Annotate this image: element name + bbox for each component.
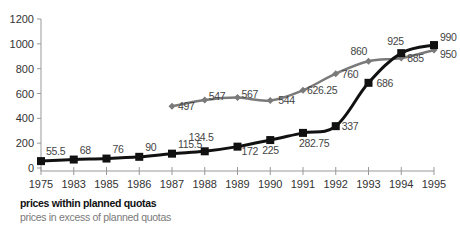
data-label: 990	[440, 31, 457, 43]
series-excess-quotas: 497547567544626.25760860885950	[169, 45, 458, 112]
data-point-marker	[300, 87, 307, 94]
x-tick-label: 1985	[94, 178, 118, 190]
data-label: 547	[209, 90, 226, 102]
x-tick-label: 1994	[389, 178, 413, 190]
y-tick-label: 0	[28, 162, 34, 174]
data-point-marker	[103, 155, 111, 163]
y-tick-label: 1000	[10, 38, 34, 50]
data-point-marker	[299, 129, 307, 137]
data-label: 172	[242, 145, 259, 157]
data-label: 686	[377, 77, 394, 89]
x-tick-label: 1988	[193, 178, 217, 190]
data-point-marker	[169, 103, 176, 110]
data-label: 497	[178, 100, 195, 112]
data-point-marker	[365, 58, 372, 65]
y-tick-label: 400	[16, 112, 34, 124]
data-label: 337	[342, 120, 359, 132]
x-tick-label: 1992	[324, 178, 348, 190]
series-layer: 497547567544626.2576086088595055.5687690…	[37, 31, 457, 165]
y-tick-label: 200	[16, 137, 34, 149]
x-tick-label: 1986	[127, 178, 151, 190]
data-point-marker	[365, 79, 373, 87]
data-label: 55.5	[46, 145, 66, 157]
data-label: 760	[342, 68, 359, 80]
data-point-marker	[332, 122, 340, 130]
x-tick-label: 1983	[62, 178, 86, 190]
data-label: 885	[407, 52, 424, 64]
data-point-marker	[267, 97, 274, 104]
data-label: 134.5	[189, 131, 214, 143]
data-point-marker	[37, 157, 45, 165]
y-tick-label: 1200	[10, 13, 34, 25]
data-label: 282.75	[299, 137, 330, 149]
y-axis: 020040060080010001200	[10, 13, 41, 174]
data-point-marker	[430, 41, 438, 49]
data-label: 90	[145, 141, 157, 153]
data-label: 626.25	[307, 84, 338, 96]
data-point-marker	[266, 136, 274, 144]
y-tick-label: 800	[16, 63, 34, 75]
line-chart: 020040060080010001200 197519831985198619…	[0, 0, 460, 195]
data-label: 544	[278, 94, 295, 106]
data-label: 76	[113, 143, 125, 155]
x-tick-label: 1989	[225, 178, 249, 190]
data-point-marker	[168, 150, 176, 158]
data-label: 567	[242, 88, 259, 100]
legend-item-within-quotas: prices within planned quotas	[20, 197, 156, 209]
data-point-marker	[135, 153, 143, 161]
x-tick-label: 1991	[291, 178, 315, 190]
data-label: 68	[80, 144, 92, 156]
x-tick-label: 1995	[422, 178, 446, 190]
y-tick-label: 600	[16, 88, 34, 100]
x-tick-label: 1993	[356, 178, 380, 190]
x-tick-label: 1990	[258, 178, 282, 190]
x-tick-label: 1987	[160, 178, 184, 190]
data-point-marker	[397, 49, 405, 57]
data-point-marker	[234, 94, 241, 101]
x-tick-label: 1975	[29, 178, 53, 190]
data-label: 925	[387, 35, 404, 47]
data-point-marker	[201, 97, 208, 104]
data-label: 860	[351, 45, 368, 57]
data-point-marker	[234, 143, 242, 151]
data-label: 950	[440, 48, 457, 60]
data-label: 225	[262, 144, 279, 156]
data-point-marker	[70, 156, 78, 164]
legend-item-excess-quotas: prices in excess of planned quotas	[20, 211, 171, 223]
x-axis: 1975198319851986198719881989199019911992…	[29, 167, 446, 190]
data-point-marker	[201, 147, 209, 155]
